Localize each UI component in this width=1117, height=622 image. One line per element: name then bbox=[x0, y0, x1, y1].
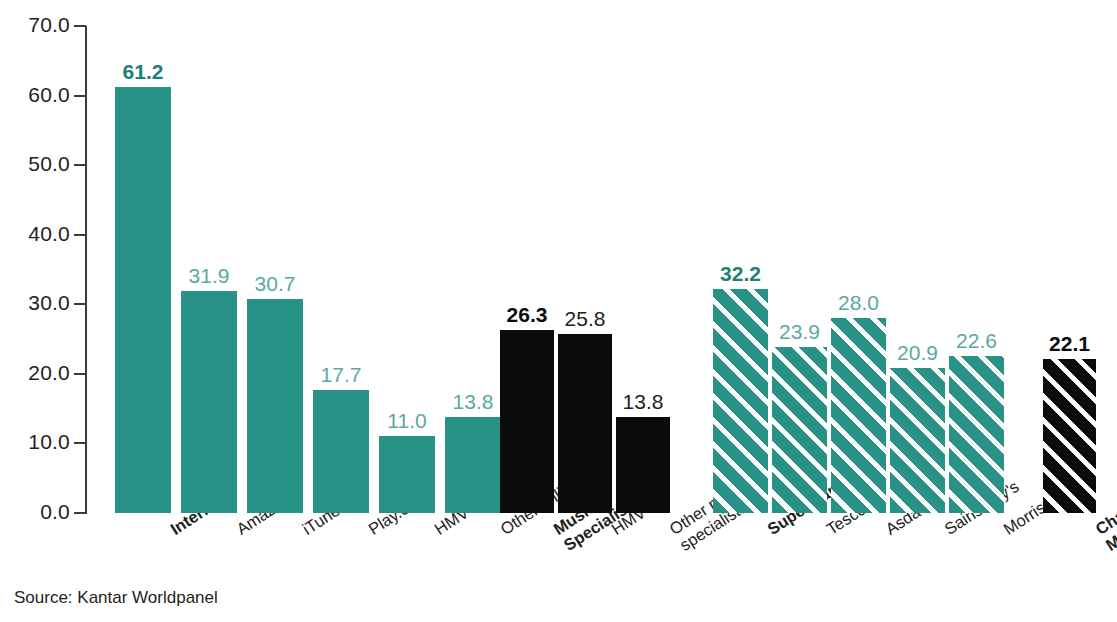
bar-chart: 70.060.050.040.030.020.010.00.0 61.2Inte… bbox=[0, 0, 1117, 622]
bar bbox=[949, 356, 1004, 513]
bar bbox=[181, 291, 237, 513]
x-axis-category-label: iTunes bbox=[299, 523, 310, 539]
bar bbox=[558, 334, 612, 513]
bar-value-label: 32.2 bbox=[701, 263, 780, 284]
bar bbox=[500, 330, 554, 513]
x-axis-category-label: Internet bbox=[167, 523, 178, 539]
x-axis-category-label: HMV bbox=[431, 523, 442, 539]
x-axis-category-label: Tesco bbox=[823, 523, 834, 539]
bar bbox=[247, 299, 303, 513]
bar-value-label: 22.6 bbox=[937, 330, 1016, 351]
bar bbox=[772, 347, 827, 513]
plot-area: 61.2Internet31.9Amazon30.7iTunes17.7Play… bbox=[0, 0, 1117, 622]
x-axis-category-label: Play.com bbox=[365, 523, 376, 539]
x-axis-category-label: Asda bbox=[882, 523, 893, 539]
bar-value-label: 22.1 bbox=[1031, 333, 1108, 354]
bar bbox=[115, 87, 171, 513]
x-axis-category-label: Supermarkets bbox=[764, 523, 775, 539]
x-axis-category-label: Other music specialists bbox=[666, 523, 687, 556]
bar-value-label: 61.2 bbox=[103, 61, 183, 82]
bar bbox=[616, 417, 670, 513]
bar bbox=[1043, 359, 1096, 513]
x-axis-category-label: Amazon bbox=[233, 523, 244, 539]
bar-value-label: 11.0 bbox=[367, 410, 447, 431]
bar bbox=[890, 368, 945, 513]
bar bbox=[445, 417, 501, 513]
bar-value-label: 25.8 bbox=[546, 308, 624, 329]
x-axis-category-label: Sainsbury's bbox=[941, 523, 952, 539]
bar-value-label: 30.7 bbox=[235, 273, 315, 294]
x-axis-category-label: Music Specialists bbox=[550, 523, 571, 556]
bar bbox=[313, 390, 369, 513]
x-axis-category-label: Chains/ Multiples bbox=[1092, 523, 1113, 556]
x-axis-category-label: HMV bbox=[608, 523, 619, 539]
x-axis-category-label: Other online bbox=[497, 523, 508, 539]
bar-value-label: 28.0 bbox=[819, 292, 898, 313]
bar-value-label: 17.7 bbox=[301, 364, 381, 385]
bar bbox=[379, 436, 435, 513]
bar-value-label: 13.8 bbox=[604, 391, 682, 412]
bar-value-label: 23.9 bbox=[760, 321, 839, 342]
x-axis-category-label: Morrisons bbox=[1000, 523, 1011, 539]
source-note: Source: Kantar Worldpanel bbox=[14, 588, 218, 608]
